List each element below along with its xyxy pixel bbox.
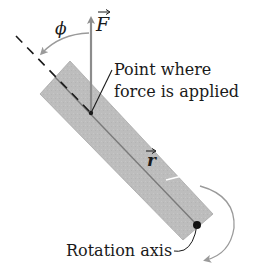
rotation-axis-label: Rotation axis [66, 241, 172, 260]
point-label-line2: force is applied [114, 82, 239, 101]
point-label-line1: Point where [114, 60, 211, 79]
rotation-arc [200, 186, 234, 260]
application-point [89, 111, 93, 115]
force-label: F [95, 13, 110, 35]
torque-diagram: ϕ F Point where force is applied r Rotat… [0, 0, 262, 267]
phi-label: ϕ [55, 18, 67, 38]
